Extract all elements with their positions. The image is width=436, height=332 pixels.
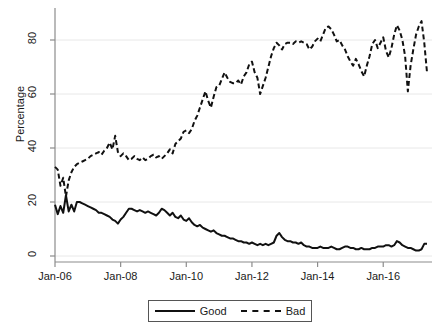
x-axis-tick-label: Jan-10 bbox=[156, 270, 216, 282]
chart-container: Percentage 020406080 Jan-06Jan-08Jan-10J… bbox=[0, 0, 436, 332]
legend-label-good: Good bbox=[200, 306, 227, 317]
legend-item-good: Good bbox=[148, 306, 234, 317]
y-axis-tick-label: 80 bbox=[26, 23, 38, 53]
y-axis-tick-label: 60 bbox=[26, 77, 38, 107]
y-axis-tick-label: 20 bbox=[26, 185, 38, 215]
y-axis-title: Percentage bbox=[14, 64, 26, 164]
legend-item-bad: Bad bbox=[234, 306, 313, 317]
chart-plot-area bbox=[0, 0, 436, 332]
chart-legend: Good Bad bbox=[148, 300, 312, 322]
data-series bbox=[55, 21, 427, 251]
axis-lines bbox=[55, 8, 432, 262]
x-axis-tick-label: Jan-12 bbox=[222, 270, 282, 282]
x-axis-tick-label: Jan-06 bbox=[25, 270, 85, 282]
x-axis-tick-label: Jan-16 bbox=[353, 270, 413, 282]
legend-label-bad: Bad bbox=[286, 306, 306, 317]
series-line-bad bbox=[55, 21, 427, 197]
series-line-good bbox=[55, 195, 427, 250]
x-axis-tick-label: Jan-08 bbox=[91, 270, 151, 282]
legend-line-dashed-icon bbox=[241, 310, 281, 312]
x-axis-tick-label: Jan-14 bbox=[288, 270, 348, 282]
legend-line-solid-icon bbox=[155, 310, 195, 312]
y-axis-tick-label: 0 bbox=[26, 239, 38, 269]
y-axis-tick-label: 40 bbox=[26, 131, 38, 161]
